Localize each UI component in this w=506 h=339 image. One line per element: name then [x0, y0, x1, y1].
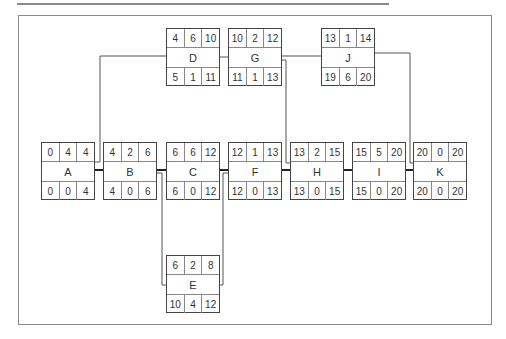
early-start: 10: [229, 29, 246, 47]
activity-label: J: [322, 47, 374, 68]
duration: 2: [246, 29, 264, 47]
early-start: 0: [42, 143, 59, 161]
late-finish: 15: [325, 182, 343, 200]
duration: 2: [184, 256, 202, 274]
duration: 6: [184, 143, 202, 161]
node-C: 6612 C 6012: [166, 142, 220, 200]
duration: 2: [308, 143, 326, 161]
early-start: 13: [322, 29, 339, 47]
activity-label: B: [104, 161, 156, 182]
duration: 6: [184, 29, 202, 47]
late-finish: 20: [387, 182, 405, 200]
early-start: 4: [104, 143, 121, 161]
node-K: 20020 K 20020: [413, 142, 467, 200]
late-finish: 12: [201, 182, 219, 200]
late-start: 15: [353, 182, 370, 200]
late-start: 20: [414, 182, 431, 200]
node-H: 13215 H 13015: [290, 142, 344, 200]
float: 0: [246, 182, 264, 200]
late-finish: 13: [263, 68, 281, 86]
early-finish: 20: [448, 143, 466, 161]
duration: 1: [339, 29, 357, 47]
float: 0: [370, 182, 388, 200]
node-A: 044 A 004: [41, 142, 95, 200]
duration: 1: [246, 143, 264, 161]
float: 1: [246, 68, 264, 86]
early-start: 12: [229, 143, 246, 161]
node-J: 13114 J 19620: [321, 28, 375, 86]
activity-label: H: [291, 161, 343, 182]
float: 0: [59, 182, 77, 200]
late-start: 12: [229, 182, 246, 200]
edge-B-E: [157, 173, 166, 285]
early-finish: 10: [201, 29, 219, 47]
late-finish: 11: [201, 68, 219, 86]
late-start: 0: [42, 182, 59, 200]
duration: 2: [121, 143, 139, 161]
float: 0: [121, 182, 139, 200]
early-start: 13: [291, 143, 308, 161]
late-start: 10: [167, 295, 184, 313]
early-finish: 8: [201, 256, 219, 274]
float: 0: [431, 182, 449, 200]
activity-label: C: [167, 161, 219, 182]
early-finish: 12: [201, 143, 219, 161]
late-start: 13: [291, 182, 308, 200]
activity-label: K: [414, 161, 466, 182]
activity-label: F: [229, 161, 281, 182]
activity-label: G: [229, 47, 281, 68]
activity-label: I: [353, 161, 405, 182]
late-finish: 13: [263, 182, 281, 200]
late-start: 11: [229, 68, 246, 86]
late-finish: 6: [138, 182, 156, 200]
node-F: 12113 F 12013: [228, 142, 282, 200]
early-finish: 15: [325, 143, 343, 161]
early-finish: 12: [263, 29, 281, 47]
early-finish: 20: [387, 143, 405, 161]
late-start: 19: [322, 68, 339, 86]
node-D: 4610 D 5111: [166, 28, 220, 86]
node-G: 10212 G 11113: [228, 28, 282, 86]
early-finish: 4: [76, 143, 94, 161]
early-finish: 14: [356, 29, 374, 47]
activity-label: A: [42, 161, 94, 182]
edge-E-F: [219, 173, 228, 285]
float: 0: [308, 182, 326, 200]
float: 6: [339, 68, 357, 86]
float: 1: [184, 68, 202, 86]
activity-label: E: [167, 274, 219, 295]
node-E: 628 E 10412: [166, 255, 220, 313]
early-finish: 6: [138, 143, 156, 161]
late-finish: 20: [448, 182, 466, 200]
float: 4: [184, 295, 202, 313]
early-finish: 13: [263, 143, 281, 161]
early-start: 15: [353, 143, 370, 161]
early-start: 20: [414, 143, 431, 161]
late-start: 6: [167, 182, 184, 200]
late-start: 5: [167, 68, 184, 86]
late-finish: 12: [201, 295, 219, 313]
duration: 0: [431, 143, 449, 161]
edge-G-H: [281, 60, 290, 163]
duration: 5: [370, 143, 388, 161]
activity-label: D: [167, 47, 219, 68]
early-start: 6: [167, 143, 184, 161]
early-start: 4: [167, 29, 184, 47]
late-start: 4: [104, 182, 121, 200]
float: 0: [184, 182, 202, 200]
duration: 4: [59, 143, 77, 161]
node-B: 426 B 406: [103, 142, 157, 200]
late-finish: 20: [356, 68, 374, 86]
late-finish: 4: [76, 182, 94, 200]
early-start: 6: [167, 256, 184, 274]
node-I: 15520 I 15020: [352, 142, 406, 200]
